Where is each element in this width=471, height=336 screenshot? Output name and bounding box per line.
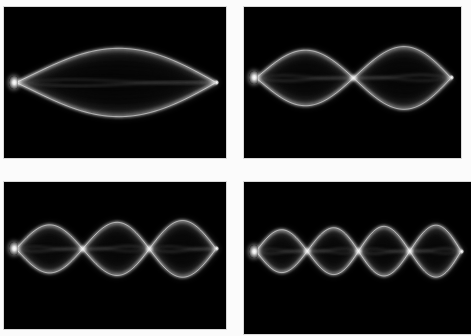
- fixed-end-point: [459, 249, 464, 254]
- string-trace: [16, 240, 216, 257]
- standing-wave-trace: [4, 182, 226, 329]
- string-trace: [16, 241, 216, 258]
- wave-stage-2: [244, 7, 461, 158]
- node-highlight: [147, 246, 152, 251]
- node-highlight: [80, 246, 85, 251]
- standing-wave-trace: [244, 7, 461, 158]
- standing-wave-figure: [0, 0, 471, 336]
- wave-stage-1: [4, 7, 226, 158]
- string-trace: [16, 231, 216, 268]
- panel-second-harmonic: [244, 7, 461, 158]
- mechanical-vibrator: [9, 76, 18, 89]
- panel-third-harmonic: [4, 182, 226, 329]
- wave-stage-4: [244, 182, 471, 334]
- mechanical-vibrator: [249, 71, 258, 84]
- string-trace: [16, 244, 216, 254]
- string-trace: [16, 244, 216, 254]
- mechanical-vibrator: [9, 242, 18, 255]
- node-highlight: [407, 249, 412, 254]
- panel-first-harmonic: [4, 7, 226, 158]
- fixed-end-point: [214, 80, 219, 85]
- node-highlight: [351, 75, 356, 80]
- mechanical-vibrator: [249, 245, 258, 258]
- standing-wave-trace: [244, 182, 471, 334]
- wave-stage-3: [4, 182, 226, 329]
- node-highlight: [356, 249, 361, 254]
- panel-fourth-harmonic: [244, 182, 471, 334]
- node-highlight: [305, 249, 310, 254]
- standing-wave-trace: [4, 7, 226, 158]
